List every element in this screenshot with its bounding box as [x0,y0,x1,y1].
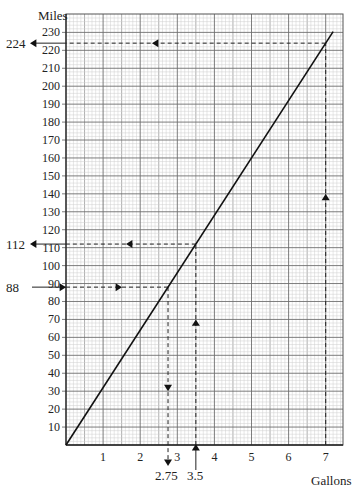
y-tick-label: 10 [48,420,60,434]
y-tick-label: 220 [42,43,60,57]
reading-label-3-5: 3.5 [187,468,203,483]
x-tick-label: 7 [323,450,329,464]
y-tick-label: 70 [48,312,60,326]
reading-label-88: 88 [6,280,19,295]
miles-vs-gallons-chart: 1020304050607080901001101201301401501601… [0,0,354,492]
y-tick-label: 30 [48,384,60,398]
arrow-left-icon [30,39,36,47]
reading-label-2-75: 2.75 [155,468,178,483]
y-tick-label: 190 [42,97,60,111]
y-tick-label: 110 [42,241,60,255]
y-tick-label: 150 [42,169,60,183]
x-tick-label: 5 [249,450,255,464]
chart-canvas: 1020304050607080901001101201301401501601… [0,0,354,492]
arrow-down-icon [164,385,172,391]
y-tick-label: 170 [42,133,60,147]
y-tick-label: 160 [42,151,60,165]
y-tick-label: 50 [48,348,60,362]
arrow-right-icon [116,283,122,291]
y-tick-label: 90 [48,277,60,291]
y-tick-label: 230 [42,25,60,39]
y-tick-label: 80 [48,294,60,308]
arrow-left-icon [30,240,36,248]
x-tick-label: 3 [174,450,180,464]
y-tick-label: 100 [42,259,60,273]
y-axis-title: Miles [38,8,68,23]
y-tick-label: 130 [42,205,60,219]
y-tick-label: 210 [42,61,60,75]
y-tick-label: 200 [42,79,60,93]
x-tick-label: 2 [137,450,143,464]
arrow-up-icon [322,194,330,200]
y-tick-label: 180 [42,115,60,129]
x-tick-label: 1 [100,450,106,464]
y-tick-label: 140 [42,187,60,201]
arrow-up-icon [192,319,200,325]
arrow-right-icon [60,283,66,291]
reading-label-224: 224 [6,36,26,51]
reading-label-112: 112 [6,237,25,252]
arrow-down-icon [164,460,172,466]
y-tick-label: 120 [42,223,60,237]
y-tick-label: 60 [48,330,60,344]
y-tick-label: 40 [48,366,60,380]
x-tick-label: 6 [286,450,292,464]
y-tick-label: 20 [48,402,60,416]
x-axis-title: Gallons [311,473,351,488]
x-tick-label: 4 [211,450,217,464]
